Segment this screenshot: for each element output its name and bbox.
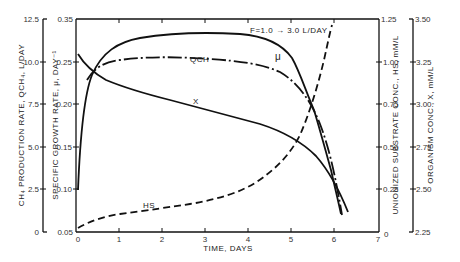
left-outer-axis-label: CH₄ PRODUCTION RATE, QCH₄, L/DAY [17,44,26,206]
plot-frame [43,19,413,232]
x-line [78,54,348,212]
tick: 0 [35,228,40,237]
qch-label: QCH [190,55,209,64]
x-tick: 1 [117,235,122,244]
tick: 5.0 [28,143,40,152]
mu-label: μ [275,51,281,62]
tick: 7.5 [28,100,40,109]
x-axis-label: TIME, DAYS [203,244,253,253]
x-tick: 0 [76,235,81,244]
right-inner-axis-label: UNIONIZED SUBSTRATE CONC., HS, mM/L [391,35,400,214]
tick: 2.25 [415,228,431,237]
tick: 1.25 [381,15,397,24]
x-tick: 7 [376,235,381,244]
x-tick: 2 [160,235,165,244]
series-lines [78,25,348,228]
mu-line [78,33,341,214]
tick: 0 [384,230,389,239]
x-tick: 3 [203,235,208,244]
x-tick: 6 [332,235,337,244]
tick: 12.5 [23,15,39,24]
feed-annotation: F=1.0 → 3.0 L/DAY [250,26,328,35]
left-inner-axis-label: SPECIFIC GROWTH RATE, μ, DAY⁻¹ [51,50,60,200]
x-tick-labels: 0 1 2 3 4 5 6 7 [76,235,381,244]
tick: 3.50 [415,15,431,24]
chart: 0 1 2 3 4 5 6 7 TIME, DAYS 0 2.5 5.0 7.5… [0,0,460,262]
x-tick: 4 [246,235,251,244]
right-outer-axis-label: ORGANISM CONC., X, mM/L [426,66,435,183]
x-label: X [193,97,199,106]
x-tick: 5 [289,235,294,244]
tick: 2.50 [416,185,432,194]
tick: 2.5 [28,185,40,194]
tick: 3.25 [416,58,432,67]
tick: 0.05 [57,228,73,237]
tick: 0.35 [57,15,73,24]
qch-line [87,57,342,215]
hs-label: HS [143,201,155,210]
tick-marks [40,19,416,232]
